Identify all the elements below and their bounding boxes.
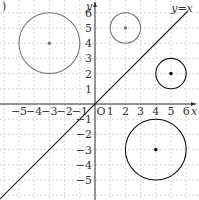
y-tick-label: 4 — [85, 37, 92, 50]
y-tick-label: 1 — [85, 83, 92, 96]
circle-center-dot — [154, 148, 158, 152]
x-tick-label: 5 — [168, 105, 175, 118]
x-tick-label: 3 — [137, 105, 144, 118]
plot-svg: −5−4−3−2−1123456654321−1−2−3−4−5Oxyy=x) — [0, 0, 199, 200]
y-tick-label: −3 — [76, 144, 92, 157]
coordinate-diagram: −5−4−3−2−1123456654321−1−2−3−4−5Oxyy=x) — [0, 0, 199, 200]
x-tick-label: 2 — [122, 105, 129, 118]
y-tick-label: 3 — [85, 52, 92, 65]
y-tick-label: −1 — [76, 113, 92, 126]
y-tick-label: −4 — [76, 159, 92, 172]
circle-center-dot — [48, 41, 52, 45]
x-tick-label: −2 — [56, 105, 72, 118]
x-tick-label: 1 — [107, 105, 114, 118]
x-tick-label: −5 — [11, 105, 27, 118]
y-tick-label: 5 — [85, 22, 92, 35]
y-tick-label: 2 — [85, 68, 92, 81]
y-axis-arrow-icon — [93, 2, 97, 7]
x-tick-label: 4 — [152, 105, 159, 118]
y-tick-label: −5 — [76, 174, 92, 187]
x-tick-label: −3 — [41, 105, 57, 118]
y-tick-label: −2 — [76, 128, 92, 141]
figure-label: ) — [2, 0, 6, 13]
x-axis-label: x — [191, 105, 198, 118]
y-axis-label: y — [85, 0, 93, 13]
circle-center-dot — [169, 72, 173, 76]
axes — [0, 2, 196, 200]
line-label: y=x — [170, 2, 193, 15]
x-tick-label: 6 — [183, 105, 190, 118]
x-tick-label: −4 — [26, 105, 42, 118]
circle-center-dot — [124, 26, 128, 30]
origin-label: O — [96, 105, 105, 118]
